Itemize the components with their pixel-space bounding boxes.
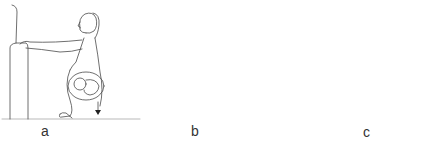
squat-illustration-figure: a b c	[0, 0, 424, 146]
face-a	[78, 22, 86, 33]
arms-under-a	[26, 48, 82, 52]
thigh-a	[67, 70, 72, 116]
panel-a-drawing	[2, 5, 140, 119]
head-a	[80, 13, 97, 33]
panel-label-b: b	[191, 124, 199, 138]
fetus-body-icon	[84, 80, 99, 95]
sofa-arm-icon	[10, 43, 28, 119]
panel-label-a: a	[41, 124, 49, 138]
illustration-canvas	[0, 0, 424, 146]
fetus-head-icon	[74, 78, 86, 90]
arms-a	[20, 40, 82, 44]
sofa-back-icon	[12, 5, 17, 43]
down-arrow-icon	[95, 110, 101, 115]
panel-label-c: c	[363, 125, 370, 139]
front-torso-a	[70, 38, 84, 70]
